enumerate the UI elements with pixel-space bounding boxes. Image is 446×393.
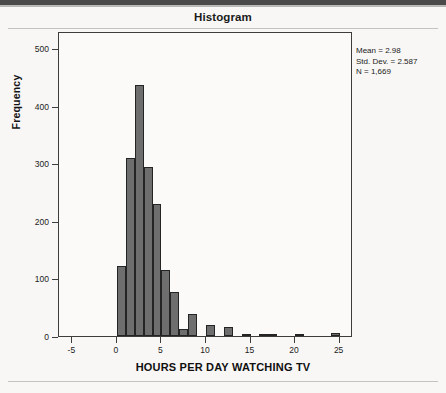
histogram-bar	[242, 334, 251, 337]
histogram-bars	[59, 33, 351, 336]
histogram-bar	[179, 329, 188, 336]
x-axis-tick-label: 25	[319, 345, 359, 355]
x-axis-tick-label: 20	[274, 345, 314, 355]
y-axis-tick-label: 200	[0, 217, 58, 227]
chart-page: Histogram Frequency 0100200300400500 -50…	[0, 0, 446, 393]
x-axis-tick	[205, 337, 206, 343]
histogram-bar	[206, 325, 215, 336]
chart-title: Histogram	[0, 11, 446, 23]
title-divider	[8, 28, 438, 29]
plot-inner	[59, 33, 351, 336]
x-axis-tick-label: -5	[51, 345, 91, 355]
histogram-bar	[144, 167, 153, 336]
x-axis-label: HOURS PER DAY WATCHING TV	[0, 361, 446, 373]
x-axis-tick-label: 10	[185, 345, 225, 355]
x-axis-tick	[160, 337, 161, 343]
x-axis-tick	[339, 337, 340, 343]
footer-divider	[8, 381, 438, 382]
y-axis-tick-label: 400	[0, 102, 58, 112]
y-axis-tick-label: 500	[0, 44, 58, 54]
histogram-bar	[268, 334, 277, 337]
histogram-bar	[126, 158, 135, 336]
histogram-bar	[170, 292, 179, 336]
histogram-bar	[295, 334, 304, 337]
plot-area	[58, 32, 352, 337]
x-axis-tick-label: 5	[140, 345, 180, 355]
histogram-bar	[188, 314, 197, 336]
histogram-bar	[224, 327, 233, 336]
stat-mean: Mean = 2.98	[356, 46, 417, 57]
x-axis-tick	[71, 337, 72, 343]
top-border-shadow	[0, 5, 446, 7]
stat-n: N = 1,669	[356, 67, 417, 78]
histogram-bar	[117, 266, 126, 336]
histogram-bar	[135, 85, 144, 336]
y-axis-tick-label: 100	[0, 274, 58, 284]
histogram-bar	[161, 270, 170, 336]
x-axis-tick-label: 0	[96, 345, 136, 355]
y-axis-tick-label: 0	[0, 332, 58, 342]
x-axis-tick	[250, 337, 251, 343]
x-axis-tick	[294, 337, 295, 343]
x-axis-tick	[116, 337, 117, 343]
x-axis-tick-label: 15	[230, 345, 270, 355]
y-axis-tick-label: 300	[0, 159, 58, 169]
histogram-bar	[331, 333, 340, 336]
stats-annotation: Mean = 2.98 Std. Dev. = 2.587 N = 1,669	[356, 46, 417, 78]
stat-std-dev: Std. Dev. = 2.587	[356, 57, 417, 68]
histogram-bar	[153, 204, 162, 336]
histogram-bar	[259, 334, 268, 337]
